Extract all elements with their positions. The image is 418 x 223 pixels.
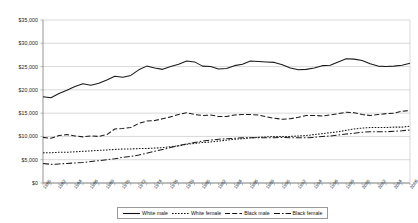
legend-label: Black male [244,210,269,217]
series-line-white-female [43,126,410,153]
legend-swatch-dotted [172,210,189,217]
legend-item-white-male[interactable]: White male [123,210,168,217]
legend-swatch-solid [123,210,140,217]
series-line-black-male [43,110,410,138]
axis-lines [43,20,410,183]
data-series-group [43,59,410,165]
legend-label: White male [142,210,168,217]
series-line-white-male [43,59,410,98]
legend-item-black-male[interactable]: Black male [225,210,269,217]
gridlines [43,20,410,183]
chart-legend: White maleWhite femaleBlack maleBlack fe… [117,207,328,219]
series-line-black-female [43,130,410,164]
legend-swatch-dashdot [274,210,291,217]
legend-item-white-female[interactable]: White female [172,210,221,217]
legend-swatch-dashed [225,210,242,217]
legend-label: White female [191,210,221,217]
legend-label: Black female [293,210,323,217]
legend-item-black-female[interactable]: Black female [274,210,323,217]
x-axis-ticks [41,20,411,185]
